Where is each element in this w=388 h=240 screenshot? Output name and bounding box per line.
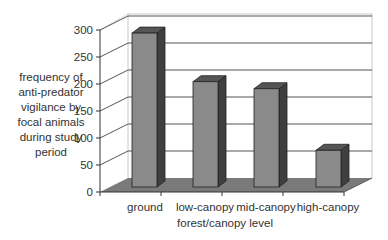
bar-ground xyxy=(132,27,165,187)
y-tick-label: 300 xyxy=(74,24,93,36)
x-axis-title: forest/canopy level xyxy=(177,217,273,229)
x-category-label: mid-canopy xyxy=(236,201,296,213)
x-category-label: high-canopy xyxy=(297,201,360,213)
gridline-diagonal xyxy=(100,70,128,84)
y-tick-label: 100 xyxy=(74,132,93,144)
gridline-diagonal xyxy=(100,97,128,111)
y-tick-label: 150 xyxy=(74,105,93,117)
gridline-diagonal xyxy=(100,124,128,138)
y-tick-label: 200 xyxy=(74,78,93,90)
y-tick-label: 50 xyxy=(80,159,93,171)
gridline-diagonal xyxy=(100,151,128,165)
y-tick-label: 0 xyxy=(87,186,93,198)
x-category-label: ground xyxy=(127,201,163,213)
x-category-label: low-canopy xyxy=(176,201,234,213)
y-tick-label: 250 xyxy=(74,51,93,63)
bar-low-canopy xyxy=(193,76,226,187)
gridline-diagonal xyxy=(100,43,128,57)
bar-high-canopy xyxy=(316,144,349,187)
y-axis-ticks: 050100150200250300 xyxy=(74,24,100,198)
bar-mid-canopy xyxy=(254,83,287,187)
gridline-diagonal xyxy=(100,16,128,30)
x-axis-ticks xyxy=(100,192,344,196)
bar-chart-3d: 050100150200250300 ground low-canopy mid… xyxy=(0,0,388,240)
bars xyxy=(132,27,349,187)
